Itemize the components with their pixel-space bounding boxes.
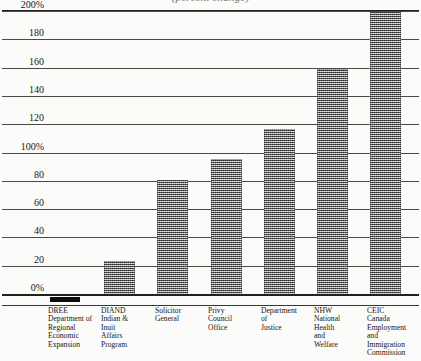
plot-baseline-axis xyxy=(2,294,419,296)
x-axis-label-privy: PrivyCouncilOffice xyxy=(208,307,260,332)
x-axis-label-line: Justice xyxy=(261,324,313,332)
x-axis-label-justice: DepartmentofJustice xyxy=(261,307,313,332)
bar-chart: (percent change) 200%180160140120100%806… xyxy=(0,0,421,361)
gridline-180 xyxy=(2,39,419,40)
bar-justice xyxy=(264,129,295,295)
x-axis-label-line: Program xyxy=(101,341,153,349)
x-axis-label-ceic: CEICCanadaEmploymentandImmigrationCommis… xyxy=(367,307,419,357)
x-axis-label-dree: DREEDepartment ofRegionalEconomicExpansi… xyxy=(48,307,100,349)
bar-diand xyxy=(104,261,135,295)
gridline-140 xyxy=(2,96,419,97)
y-axis-tick-label: 80 xyxy=(6,170,44,180)
y-axis-tick-label: 140 xyxy=(6,85,44,95)
chart-title-clipped: (percent change) xyxy=(0,0,421,3)
x-axis-label-line: Department xyxy=(261,307,313,315)
y-axis-tick-label: 180 xyxy=(6,28,44,38)
y-axis-tick-label: 160 xyxy=(6,57,44,67)
x-axis-label-nhw: NHWNationalHealthandWelfare xyxy=(314,307,366,349)
y-axis-tick-label: 120 xyxy=(6,113,44,123)
bar-solicitor xyxy=(157,180,188,295)
y-axis-tick-label: 60 xyxy=(6,198,44,208)
x-axis-label-solicitor: SolicitorGeneral xyxy=(155,307,207,324)
y-axis-tick-label: 100% xyxy=(6,142,44,152)
y-axis-tick-label: 20 xyxy=(6,255,44,265)
bar-privy xyxy=(211,159,242,295)
gridline-100 xyxy=(2,153,419,154)
bar-ceic xyxy=(370,12,401,295)
x-axis-label-line: Commission xyxy=(367,349,419,357)
x-axis-label-line: Expansion xyxy=(48,341,100,349)
x-axis-label-line: Office xyxy=(208,324,260,332)
bar-nhw xyxy=(317,69,348,295)
gridline-120 xyxy=(2,124,419,125)
y-axis-tick-label: 40 xyxy=(6,226,44,236)
x-axis-labels: DREEDepartment ofRegionalEconomicExpansi… xyxy=(2,307,419,361)
x-axis-label-diand: DIANDIndian &InuitAffairsProgram xyxy=(101,307,153,349)
x-axis-label-line: General xyxy=(155,315,207,323)
y-axis-tick-label: 200% xyxy=(6,0,44,10)
y-axis-tick-label: 0% xyxy=(6,283,44,293)
gridline-200 xyxy=(2,11,419,12)
gridline-160 xyxy=(2,68,419,69)
chart-title-text: (percent change) xyxy=(0,0,421,3)
x-axis-label-line: Welfare xyxy=(314,341,366,349)
plot-area: 200%180160140120100%806040200% xyxy=(2,12,419,295)
bar-dree xyxy=(50,297,80,302)
